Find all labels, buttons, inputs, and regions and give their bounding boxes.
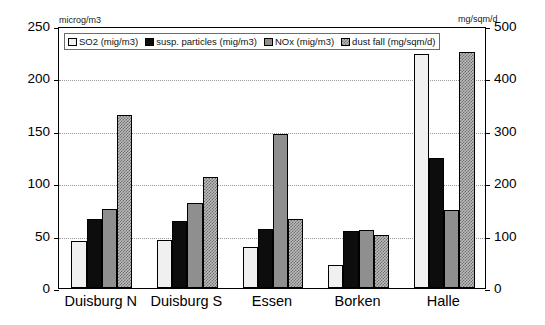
left-axis-tick-label: 50 bbox=[4, 230, 50, 244]
right-axis-tick-label: 500 bbox=[494, 20, 542, 34]
left-axis-tick-label: 200 bbox=[4, 72, 50, 86]
bar bbox=[157, 240, 172, 288]
bar-group bbox=[230, 28, 316, 288]
legend-label: SO2 (mig/m3) bbox=[79, 37, 138, 47]
category-label: Duisburg N bbox=[58, 293, 144, 309]
legend-swatch-icon bbox=[341, 38, 350, 46]
category-label: Essen bbox=[229, 293, 315, 309]
left-axis-tick-label: 150 bbox=[4, 125, 50, 139]
bar bbox=[414, 54, 429, 288]
left-axis-tick-label: 100 bbox=[4, 177, 50, 191]
bar-group bbox=[316, 28, 402, 288]
bar bbox=[374, 235, 389, 288]
bar bbox=[429, 158, 444, 288]
bar bbox=[71, 241, 86, 288]
legend-swatch-icon bbox=[145, 38, 154, 46]
axis-tick bbox=[54, 290, 59, 291]
bar-series-area bbox=[59, 28, 485, 288]
right-axis-tick-label: 300 bbox=[494, 125, 542, 139]
left-axis-tick-label: 250 bbox=[4, 20, 50, 34]
bar bbox=[187, 203, 202, 288]
bar-group bbox=[145, 28, 231, 288]
legend-swatch-icon bbox=[264, 38, 273, 46]
axis-tick bbox=[485, 290, 490, 291]
bar bbox=[444, 210, 459, 288]
legend-label: dust fall (mg/sqm/d) bbox=[352, 37, 435, 47]
bar bbox=[359, 230, 374, 288]
category-label: Duisburg S bbox=[144, 293, 230, 309]
legend-label: susp. particles (mig/m3) bbox=[156, 37, 257, 47]
chart-legend: SO2 (mig/m3)susp. particles (mig/m3)NOx … bbox=[64, 33, 440, 50]
right-axis-tick-label: 0 bbox=[494, 282, 542, 296]
bar bbox=[459, 52, 474, 288]
bar bbox=[273, 134, 288, 288]
bar bbox=[102, 209, 117, 288]
bar bbox=[87, 219, 102, 288]
bar bbox=[343, 231, 358, 288]
bar bbox=[117, 115, 132, 288]
legend-item: NOx (mig/m3) bbox=[264, 37, 334, 47]
plot-area bbox=[58, 27, 486, 289]
legend-label: NOx (mig/m3) bbox=[275, 37, 334, 47]
bar-group bbox=[59, 28, 145, 288]
legend-swatch-icon bbox=[68, 38, 77, 46]
left-axis-tick-label: 0 bbox=[4, 282, 50, 296]
right-axis-tick-label: 400 bbox=[494, 72, 542, 86]
legend-item: SO2 (mig/m3) bbox=[68, 37, 138, 47]
bar bbox=[243, 247, 258, 288]
left-axis-unit-label: microg/m3 bbox=[59, 16, 101, 25]
category-label: Halle bbox=[400, 293, 486, 309]
bar bbox=[258, 229, 273, 288]
bar bbox=[172, 221, 187, 288]
legend-item: susp. particles (mig/m3) bbox=[145, 37, 257, 47]
bar bbox=[328, 265, 343, 288]
category-label: Borken bbox=[315, 293, 401, 309]
bar bbox=[288, 219, 303, 288]
right-axis-unit-label: mg/sqm/d bbox=[458, 15, 498, 24]
chart-container: microg/m3 mg/sqm/d 050100150200250 01002… bbox=[0, 0, 545, 325]
legend-item: dust fall (mg/sqm/d) bbox=[341, 37, 435, 47]
bar bbox=[203, 177, 218, 288]
bar-group bbox=[401, 28, 487, 288]
right-axis-tick-label: 200 bbox=[494, 177, 542, 191]
right-axis-tick-label: 100 bbox=[494, 230, 542, 244]
